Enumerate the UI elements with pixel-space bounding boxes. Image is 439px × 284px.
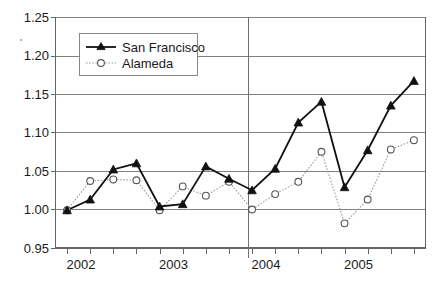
data-point-alameda bbox=[387, 146, 394, 153]
series-markers-alameda bbox=[64, 137, 418, 227]
x-tick-label: 2003 bbox=[159, 257, 188, 272]
chart-legend: San Francisco Alameda bbox=[80, 34, 206, 76]
y-tick-label: 1.10 bbox=[24, 125, 49, 140]
y-tick-label: 1.00 bbox=[24, 202, 49, 217]
data-point-san-francisco bbox=[132, 159, 141, 167]
data-point-alameda bbox=[341, 220, 348, 227]
data-point-alameda bbox=[110, 176, 117, 183]
data-point-san-francisco bbox=[202, 162, 211, 170]
legend-swatch-marker-alameda bbox=[98, 60, 105, 67]
y-axis-tickmarks bbox=[51, 18, 56, 249]
data-point-alameda bbox=[272, 191, 279, 198]
y-tick-label: 1.25 bbox=[24, 10, 49, 25]
data-point-san-francisco bbox=[363, 146, 372, 154]
data-point-alameda bbox=[364, 196, 371, 203]
data-point-alameda bbox=[295, 178, 302, 185]
legend-label-alameda: Alameda bbox=[122, 56, 174, 71]
data-point-san-francisco bbox=[317, 97, 326, 105]
y-tick-label: 0.95 bbox=[24, 241, 49, 256]
scan-artifact-speck bbox=[20, 39, 22, 41]
data-point-alameda bbox=[202, 192, 209, 199]
x-tick-label: 2002 bbox=[67, 257, 96, 272]
data-point-san-francisco bbox=[410, 77, 419, 85]
data-point-alameda bbox=[87, 178, 94, 185]
x-axis-labels: 2002200320042005 bbox=[67, 257, 373, 272]
data-point-alameda bbox=[318, 148, 325, 155]
data-point-alameda bbox=[179, 183, 186, 190]
series-line-san-francisco bbox=[67, 81, 414, 210]
series-markers-san-francisco bbox=[63, 77, 418, 214]
line-chart: 0.951.001.051.101.151.201.25 20022003200… bbox=[0, 0, 439, 284]
data-point-san-francisco bbox=[271, 164, 280, 172]
series-line-alameda bbox=[67, 140, 414, 223]
chart-container: 0.951.001.051.101.151.201.25 20022003200… bbox=[0, 0, 439, 284]
data-point-san-francisco bbox=[225, 174, 234, 182]
legend-label-san-francisco: San Francisco bbox=[122, 40, 205, 55]
y-tick-label: 1.05 bbox=[24, 164, 49, 179]
data-point-alameda bbox=[249, 206, 256, 213]
y-tick-label: 1.15 bbox=[24, 87, 49, 102]
data-point-alameda bbox=[133, 177, 140, 184]
x-tick-label: 2005 bbox=[344, 257, 373, 272]
y-tick-label: 1.20 bbox=[24, 48, 49, 63]
y-axis-labels: 0.951.001.051.101.151.201.25 bbox=[24, 10, 49, 256]
data-point-alameda bbox=[411, 137, 418, 144]
x-tick-label: 2004 bbox=[252, 257, 281, 272]
